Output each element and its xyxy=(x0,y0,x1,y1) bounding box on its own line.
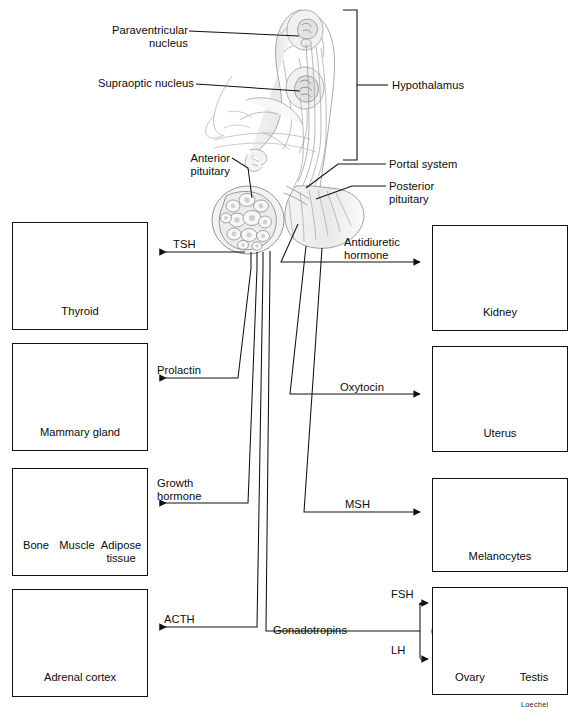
caption-adrenal-cortex: Adrenal cortex xyxy=(20,671,140,684)
label-supraoptic-nucleus: Supraoptic nucleus xyxy=(0,77,194,90)
label-antidiuretic-hormone: Antidiuretic hormone xyxy=(344,236,400,261)
caption-adipose-tissue: Adipose tissue xyxy=(97,539,145,564)
caption-testis: Testis xyxy=(506,671,562,684)
label-paraventricular-nucleus: Paraventricular nucleus xyxy=(0,24,188,49)
figure-canvas: Paraventricular nucleus Supraoptic nucle… xyxy=(0,0,580,721)
label-lh: LH xyxy=(391,644,405,657)
label-acth: ACTH xyxy=(164,613,195,626)
label-tsh: TSH xyxy=(173,238,196,251)
label-anterior-pituitary: Anterior pituitary xyxy=(118,152,230,177)
label-growth-hormone: Growth hormone xyxy=(157,477,202,502)
label-hypothalamus: Hypothalamus xyxy=(392,79,464,92)
label-prolactin: Prolactin xyxy=(157,364,201,377)
label-posterior-pituitary: Posterior pituitary xyxy=(389,180,434,205)
artist-signature: Loechel xyxy=(521,700,548,709)
caption-uterus: Uterus xyxy=(440,427,560,440)
caption-kidney: Kidney xyxy=(440,306,560,319)
caption-ovary: Ovary xyxy=(442,671,498,684)
caption-thyroid: Thyroid xyxy=(20,305,140,318)
caption-muscle: Muscle xyxy=(52,539,102,552)
label-portal-system: Portal system xyxy=(389,158,457,171)
label-oxytocin: Oxytocin xyxy=(340,381,384,394)
caption-melanocytes: Melanocytes xyxy=(440,550,560,563)
caption-mammary-gland: Mammary gland xyxy=(20,426,140,439)
label-msh: MSH xyxy=(345,498,370,511)
label-gonadotropins: Gonadotropins xyxy=(273,624,347,637)
label-fsh: FSH xyxy=(391,588,414,601)
